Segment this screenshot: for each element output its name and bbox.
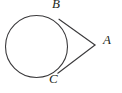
- point-label-b: B: [52, 0, 60, 10]
- tangent-segment-c-a: [58, 45, 95, 73]
- geometry-figure: B C A: [0, 0, 122, 93]
- circle: [6, 16, 68, 78]
- point-label-c: C: [49, 72, 58, 85]
- point-label-a: A: [103, 33, 111, 46]
